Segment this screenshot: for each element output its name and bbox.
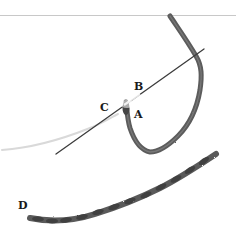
chain-stitch-diagram: A B C D	[0, 0, 236, 244]
label-d: D	[18, 200, 28, 211]
chain-stitches	[30, 154, 216, 224]
label-c: C	[100, 102, 109, 113]
illustration	[0, 0, 236, 244]
label-a: A	[134, 109, 143, 120]
faint-thread-tail	[2, 114, 118, 150]
label-b: B	[134, 81, 143, 92]
